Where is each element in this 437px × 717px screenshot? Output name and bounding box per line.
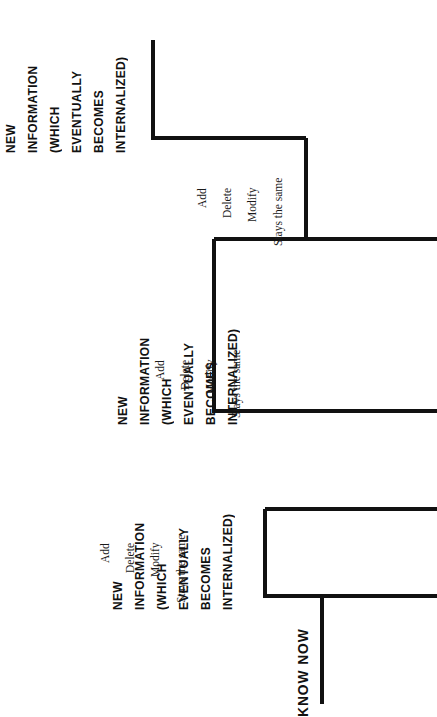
step3-riser-label-modify: Modify (149, 543, 161, 578)
step3-riser-label-add: Add (99, 543, 111, 563)
stair-step-3-riser (265, 509, 379, 596)
step1-heading-text-2: (WHICH (47, 106, 62, 153)
step3-heading-line-0: NEW (110, 578, 125, 610)
step2-heading-line-1: INFORMATION (137, 330, 152, 425)
step1-heading-text-3: EVENTUALLY (69, 71, 84, 153)
base-label-know-now: KNOW NOW (294, 621, 311, 717)
step2-heading-line-0: NEW (115, 393, 130, 425)
step1-heading-text-1: INFORMATION (25, 65, 40, 153)
step2-riser-label-add: Add (154, 360, 166, 380)
step3-heading-text-5: INTERNALIZED) (220, 514, 235, 610)
step1-heading-text-0: NEW (3, 124, 18, 153)
step3-riser-label-delete: Delete (124, 543, 136, 573)
step2-heading-text-2: (WHICH (159, 378, 174, 425)
step3-riser-label-stays-the-same: Stays the same (175, 535, 187, 603)
base-label-text: KNOW NOW (294, 628, 311, 717)
step2-riser-label-delete: Delete (179, 360, 191, 390)
step3-heading-line-5: INTERNALIZED) (220, 505, 235, 610)
step1-heading-line-5: INTERNALIZED) (113, 48, 128, 153)
stair-polyline (322, 596, 437, 704)
step3-heading-line-4: BECOMES (198, 541, 213, 610)
step3-heading-text-4: BECOMES (198, 547, 213, 610)
step1-riser-label-delete: Delete (221, 188, 233, 218)
step3-heading-text-0: NEW (110, 581, 125, 610)
step1-riser-label-modify: Modify (246, 188, 258, 223)
step2-heading-text-0: NEW (115, 396, 130, 425)
step1-heading-line-3: EVENTUALLY (69, 64, 84, 153)
step1-riser-label-add: Add (196, 188, 208, 208)
step1-heading-line-0: NEW (3, 121, 18, 153)
step2-riser-label-stays-the-same: Stays the same (230, 350, 242, 418)
step1-heading-text-5: INTERNALIZED) (113, 57, 128, 153)
step2-heading-line-2: (WHICH (159, 374, 174, 425)
stair-step-1-riser (153, 40, 306, 138)
step1-riser-label-stays-the-same: Stays the same (272, 178, 284, 246)
step1-heading-line-4: BECOMES (91, 84, 106, 153)
step1-heading-text-4: BECOMES (91, 90, 106, 153)
step2-heading-text-1: INFORMATION (137, 337, 152, 425)
step1-heading-line-1: INFORMATION (25, 58, 40, 153)
step2-riser-label-modify: Modify (204, 360, 216, 395)
step1-heading-line-2: (WHICH (47, 102, 62, 153)
